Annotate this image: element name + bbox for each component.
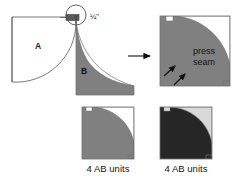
piece-b-shape	[76, 22, 134, 95]
panel-unit-light	[82, 107, 135, 159]
seam-allowance-label: ¼"	[90, 12, 99, 21]
panel-unit-dark	[160, 107, 213, 159]
piece-a-label: A	[35, 41, 41, 51]
unit-dark-notch-bottom	[206, 155, 212, 159]
caption-right: 4 AB units	[165, 163, 208, 174]
unit-light-notch-top	[86, 107, 92, 111]
press-seam-line1: press	[193, 46, 216, 56]
piece-a-shape	[12, 17, 76, 82]
pressed-unit-notch-bottom	[223, 81, 230, 86]
piece-b-label: B	[81, 66, 87, 76]
unit-light-notch-bottom	[128, 155, 134, 159]
press-seam-line2: seam	[193, 57, 215, 67]
piecing-diagram: A B ¼"	[0, 0, 241, 176]
pressed-unit-notch-top	[166, 16, 173, 21]
seam-allowance-block	[66, 15, 79, 21]
diagram-page: A B ¼"	[0, 0, 241, 176]
panel-pieces: A B ¼"	[12, 5, 134, 95]
unit-dark-notch-top	[164, 107, 170, 111]
caption-left: 4 AB units	[87, 163, 130, 174]
